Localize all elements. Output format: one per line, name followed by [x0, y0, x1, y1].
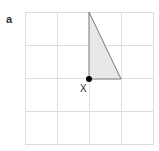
- grid-diagram: X: [0, 0, 159, 151]
- point-x-label: X: [80, 83, 87, 94]
- point-x: [86, 76, 92, 82]
